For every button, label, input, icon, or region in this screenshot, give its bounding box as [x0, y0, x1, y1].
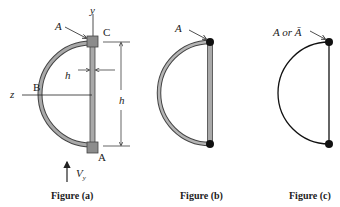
area-label-c: A or Ā: [272, 26, 302, 38]
area-arrow-c: [310, 31, 325, 39]
semicircle-wall-outline: [40, 43, 91, 145]
point-a-label: A: [98, 151, 106, 163]
figure-a: y z B C A A h h Vy Figure (a): [9, 4, 130, 202]
node-top-b: [206, 38, 214, 46]
vertical-web: [90, 40, 95, 148]
z-axis-label: z: [9, 88, 15, 100]
flange-a: [87, 142, 98, 153]
y-axis-label: y: [89, 4, 95, 16]
vertical-web-b: [208, 42, 213, 144]
figure-a-caption: Figure (a): [51, 190, 93, 202]
area-arrow: [65, 27, 86, 38]
node-bottom-b: [206, 140, 214, 148]
diagram-canvas: y z B C A A h h Vy Figure (a): [0, 0, 340, 207]
semicircle-wall-b: [159, 42, 210, 144]
height-label: h: [119, 94, 125, 106]
figure-b: A Figure (b): [159, 22, 223, 202]
semicircle-wall: [40, 43, 91, 145]
node-top-c: [325, 38, 333, 46]
thickness-label: h: [65, 69, 71, 81]
area-a-label: A: [54, 20, 62, 32]
shear-force-label: Vy: [76, 167, 87, 182]
point-b-label: B: [33, 81, 40, 93]
figure-c: A or Ā Figure (c): [272, 26, 333, 202]
flange-c: [87, 36, 98, 47]
figure-c-caption: Figure (c): [289, 190, 331, 202]
node-bottom-c: [325, 140, 333, 148]
area-arrow-b: [189, 30, 206, 39]
point-c-label: C: [103, 26, 110, 38]
semicircle-line-c: [278, 42, 329, 144]
figure-b-caption: Figure (b): [180, 190, 223, 202]
area-label-b: A: [174, 22, 182, 34]
semicircle-wall-outline-b: [159, 42, 210, 144]
